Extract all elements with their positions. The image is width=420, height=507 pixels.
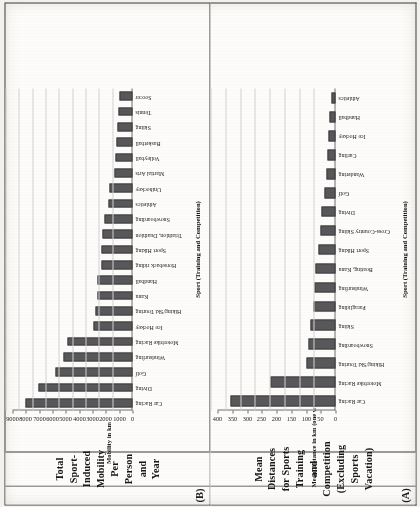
category-label: Golf <box>338 183 349 202</box>
y-tick-mark <box>276 410 277 413</box>
y-tick-label: 2000 <box>99 414 112 421</box>
y-tick-mark <box>119 410 120 413</box>
category-label-text: Handball <box>338 113 360 119</box>
bar <box>328 130 335 141</box>
category-label: Paragliding <box>338 296 365 315</box>
category-label-text: Triathlon, Duathlon <box>135 231 182 237</box>
category-label-text: Golf <box>338 189 349 195</box>
bar <box>270 376 335 387</box>
category-label: Cross-Country Skiing <box>338 221 390 240</box>
panel-b-body: Mobility in km 0100020003000400050006000… <box>5 3 209 451</box>
y-tick-mark <box>52 410 53 413</box>
y-tick-label: 350 <box>227 414 236 421</box>
y-tick-label: 6000 <box>46 414 59 421</box>
bar <box>101 260 132 269</box>
category-label-text: Diving <box>338 208 354 214</box>
bar <box>313 301 335 312</box>
bar-column <box>217 353 335 372</box>
panel-a: (A) Mean Distances for Sports Training a… <box>210 2 416 505</box>
y-tick-mark <box>39 410 40 413</box>
panel-b-x-axis-label: Sport (Training and Competition) <box>193 88 200 410</box>
y-tick-label: 4000 <box>72 414 85 421</box>
bar <box>97 291 132 300</box>
bar-column <box>217 221 335 240</box>
category-label: Basketball <box>135 134 160 149</box>
bar <box>102 229 132 238</box>
category-label: Kanu <box>135 287 148 302</box>
category-label-text: Basketball <box>135 139 160 145</box>
bar <box>331 92 335 103</box>
panel-a-y-axis-label: Mean Distance in km (one way) <box>210 436 415 449</box>
panel-b-y-tick-labels: 0100020003000400050006000700080009000 <box>8 411 136 437</box>
category-label: Unihockey <box>135 180 161 195</box>
category-label-text: Hiking/Ski Touring <box>338 360 384 366</box>
bar <box>314 282 335 293</box>
category-label-text: Volleyball <box>135 154 159 160</box>
category-label: Car Racing <box>338 391 365 410</box>
category-label-text: Paragliding <box>338 303 365 309</box>
panel-b-category-labels: Car RacingDivingGolfWindsurfingMotorbike… <box>135 88 191 410</box>
category-label: Golf <box>135 364 146 379</box>
category-label-text: Martial Arts <box>135 169 164 175</box>
y-tick-label: 5000 <box>59 414 72 421</box>
bar <box>318 244 335 255</box>
category-label-text: Athletics <box>338 95 359 101</box>
category-label-text: Curling <box>338 151 356 157</box>
category-label-text: Athletics <box>135 200 156 206</box>
category-label-text: Skiing <box>135 123 150 129</box>
category-label: Horseback riding <box>135 257 176 272</box>
paper-sheet: (B) Total Sport-Induced Mobility Per Per… <box>4 2 416 505</box>
bar-column <box>217 126 335 145</box>
category-label-text: Ice Hockey <box>135 323 162 329</box>
gridline <box>225 88 226 410</box>
bar <box>117 122 132 131</box>
y-tick-label: 300 <box>242 414 251 421</box>
bar-column <box>217 202 335 221</box>
gridline <box>269 88 270 410</box>
category-label-text: Wandering <box>338 170 364 176</box>
category-label-text: Hiking/Ski Touring <box>135 307 181 313</box>
bar <box>104 214 132 223</box>
bar <box>118 107 132 116</box>
y-tick-mark <box>25 410 26 413</box>
category-label-text: Skiing <box>338 322 353 328</box>
bar-column <box>217 259 335 278</box>
y-tick-label: 7000 <box>32 414 45 421</box>
gridline <box>32 88 33 410</box>
category-label: Curling <box>338 145 356 164</box>
bar <box>324 187 336 198</box>
category-label: Diving <box>135 379 151 394</box>
category-label-text: Tennis <box>135 108 151 114</box>
category-label-text: Sport Hiking <box>135 246 166 252</box>
bar <box>116 137 132 146</box>
gridline <box>299 88 300 410</box>
category-label: Handball <box>338 107 360 126</box>
panel-a-y-tick-labels: 050100150200250300350400 <box>213 411 339 437</box>
bar-column <box>217 334 335 353</box>
bar-column <box>217 315 335 334</box>
category-label-text: Car Racing <box>135 399 162 405</box>
y-tick-mark <box>306 410 307 413</box>
category-label-text: Unihockey <box>135 185 161 191</box>
y-tick-mark <box>335 410 336 413</box>
gridline <box>210 88 211 410</box>
y-tick-mark <box>65 410 66 413</box>
category-label-text: Kanu <box>135 292 148 298</box>
bar <box>327 149 335 160</box>
category-label: Athletics <box>338 88 359 107</box>
gridline <box>18 88 19 410</box>
panel-b-y-axis-label: Mobility in km <box>5 436 209 449</box>
bar <box>308 338 335 349</box>
category-label: Martial Arts <box>135 165 164 180</box>
category-label-text: Soccer <box>135 93 151 99</box>
y-tick-mark <box>232 410 233 413</box>
panel-a-body: Mean Distance in km (one way) 0501001502… <box>210 3 415 451</box>
category-label-text: Cross-Country Skiing <box>338 227 390 233</box>
category-label: Skiing <box>338 315 353 334</box>
y-tick-mark <box>247 410 248 413</box>
category-label: Handball <box>135 272 157 287</box>
gridline <box>72 88 73 410</box>
category-label-text: Handball <box>135 277 157 283</box>
y-tick-label: 400 <box>212 414 221 421</box>
bar-column <box>217 296 335 315</box>
